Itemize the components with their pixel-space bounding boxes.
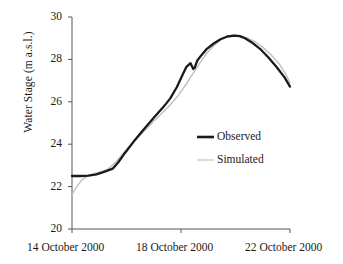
legend-label-simulated: Simulated <box>217 154 264 166</box>
chart-legend-swatches <box>197 137 214 160</box>
y-tick-label: 30 <box>36 11 62 23</box>
x-tick-label: 22 October 2000 <box>0 242 343 254</box>
y-tick-label: 20 <box>36 223 62 235</box>
chart-series <box>72 35 290 195</box>
y-tick-label: 24 <box>36 138 62 150</box>
y-tick-label: 22 <box>36 181 62 193</box>
chart-container: Water Stage (m a.s.l.) 202224262830 14 O… <box>0 0 343 264</box>
y-axis-title: Water Stage (m a.s.l.) <box>22 7 34 157</box>
chart-axes <box>68 17 290 233</box>
legend-label-observed: Observed <box>217 131 261 143</box>
y-tick-label: 26 <box>36 96 62 108</box>
y-tick-label: 28 <box>36 53 62 65</box>
